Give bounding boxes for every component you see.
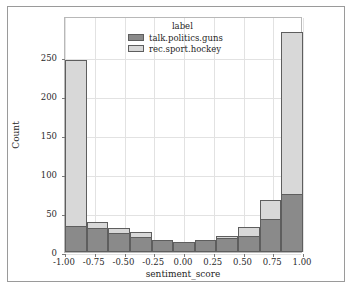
bar-group: [173, 242, 195, 252]
x-tick-label-4: 0.00: [174, 257, 193, 267]
bar-segment-talk-politics-guns: [87, 228, 109, 252]
y-tick-mark-1: [62, 215, 65, 216]
y-tick-mark-4: [62, 98, 65, 99]
bar-segment-talk-politics-guns: [195, 240, 217, 252]
x-tick-label-2: -0.50: [113, 257, 135, 267]
bar-group: [195, 240, 217, 252]
bar-segment-talk-politics-guns: [216, 238, 238, 252]
bar-segment-rec-sport-hockey: [260, 200, 282, 219]
bar-segment-talk-politics-guns: [130, 237, 152, 252]
y-axis-title: Count: [11, 121, 21, 149]
bar-segment-talk-politics-guns: [108, 233, 130, 252]
y-tick-label-1: 50: [46, 209, 57, 219]
y-tick-label-4: 200: [41, 92, 57, 102]
y-tick-label-5: 250: [41, 53, 57, 63]
legend-entries: talk.politics.gunsrec.sport.hockey: [128, 32, 223, 54]
bar-segment-talk-politics-guns: [281, 194, 303, 252]
y-tick-label-2: 100: [41, 170, 57, 180]
legend: label talk.politics.gunsrec.sport.hockey: [128, 21, 223, 54]
bar-group: [65, 60, 87, 252]
legend-swatch-1: [128, 45, 144, 52]
x-tick-label-1: -0.75: [83, 257, 105, 267]
x-tick-label-8: 1.00: [293, 257, 312, 267]
bar-segment-talk-politics-guns: [260, 219, 282, 252]
bar-group: [87, 222, 109, 252]
gridline-horizontal-0: [65, 254, 301, 255]
x-tick-label-7: 0.75: [263, 257, 282, 267]
x-axis-title: sentiment_score: [64, 269, 302, 279]
x-tick-label-0: -1.00: [53, 257, 75, 267]
y-tick-label-3: 150: [41, 131, 57, 141]
bar-group: [152, 240, 174, 252]
figure-panel: 050100150200250 -1.00-0.75-0.50-0.250.00…: [7, 6, 345, 282]
bar-group: [130, 232, 152, 252]
bar-group: [281, 32, 303, 252]
x-tick-label-5: 0.25: [203, 257, 222, 267]
bar-segment-talk-politics-guns: [238, 236, 260, 252]
legend-label-0: talk.politics.guns: [149, 33, 223, 43]
y-tick-mark-3: [62, 137, 65, 138]
y-tick-mark-5: [62, 59, 65, 60]
bar-segment-talk-politics-guns: [173, 242, 195, 252]
bar-segment-rec-sport-hockey: [65, 60, 87, 227]
bar-segment-rec-sport-hockey: [238, 227, 260, 236]
bar-group: [238, 227, 260, 252]
legend-title: label: [128, 21, 223, 31]
gridline-vertical-8: [303, 18, 304, 252]
bar-segment-talk-politics-guns: [65, 226, 87, 252]
bar-segment-rec-sport-hockey: [281, 32, 303, 194]
legend-entry: talk.politics.guns: [128, 32, 223, 43]
x-tick-label-3: -0.25: [142, 257, 164, 267]
legend-swatch-0: [128, 34, 144, 41]
y-tick-mark-2: [62, 176, 65, 177]
bar-group: [216, 236, 238, 252]
x-tick-label-6: 0.50: [233, 257, 252, 267]
legend-entry: rec.sport.hockey: [128, 43, 223, 54]
legend-label-1: rec.sport.hockey: [149, 44, 221, 54]
bar-group: [108, 228, 130, 252]
bar-group: [260, 200, 282, 252]
bar-segment-talk-politics-guns: [152, 240, 174, 252]
